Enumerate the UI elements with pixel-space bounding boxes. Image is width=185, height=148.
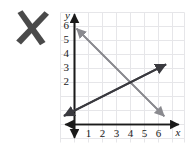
axis-label-y: y [64,9,70,21]
ytick-label-5: 5 [64,33,70,45]
figure-container: 6 5 4 3 2 1 2 3 4 5 6 y x [0,0,185,148]
xtick-label-3: 3 [114,127,120,139]
ytick-label-2: 2 [64,75,70,87]
coordinate-plane: 6 5 4 3 2 1 2 3 4 5 6 y x [60,0,185,148]
ytick-label-3: 3 [64,61,70,73]
xtick-label-5: 5 [142,127,148,139]
x-cross-mark-icon [8,6,54,52]
xtick-label-6: 6 [156,127,162,139]
ytick-label-4: 4 [64,47,70,59]
xtick-label-4: 4 [128,127,134,139]
ascending-line [64,64,166,116]
axis-label-x: x [175,126,181,138]
xtick-label-1: 1 [86,127,92,139]
xtick-label-2: 2 [100,127,106,139]
